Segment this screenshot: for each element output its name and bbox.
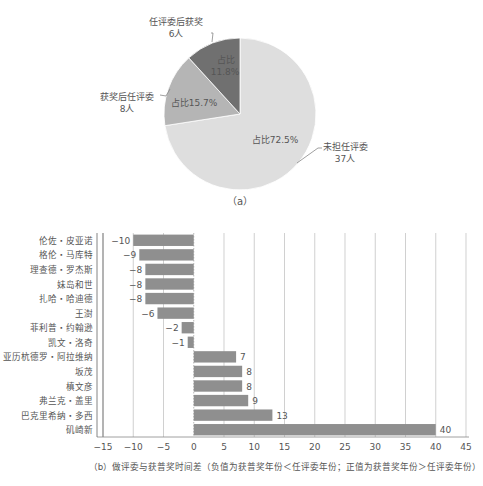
x-tick-label: 45	[460, 442, 471, 452]
x-tick-label: −5	[157, 442, 170, 452]
bar	[182, 322, 194, 333]
category-label: 伦佐・皮亚诺	[39, 235, 93, 246]
bar-value-label: −8	[129, 280, 143, 290]
bar	[145, 293, 193, 304]
x-tick-label: 20	[309, 442, 321, 452]
category-label: 坂茂	[75, 366, 93, 377]
bar	[145, 264, 193, 275]
category-label: 菲利普・约翰逊	[30, 322, 93, 333]
bar	[188, 337, 194, 348]
x-tick-label: −15	[94, 442, 113, 452]
caption-b: （b）做评委与获普奖时间差（负值为获普奖年份＜任评委年份；正值为获普奖年份＞任评…	[89, 461, 481, 472]
bar-value-label: −6	[141, 309, 155, 319]
x-tick-label: 30	[370, 442, 382, 452]
bar	[157, 307, 193, 318]
x-tick-label: −10	[124, 442, 143, 452]
bar-value-label: 9	[252, 396, 258, 406]
bar	[194, 409, 273, 420]
x-tick-label: 0	[191, 442, 197, 452]
bar-value-label: −1	[171, 338, 184, 348]
bar	[145, 278, 193, 289]
x-axis-ticks: −15−10−5051015202530354045	[94, 442, 472, 452]
bar	[194, 366, 242, 377]
category-label: 槙文彦	[66, 381, 93, 392]
bar	[194, 424, 436, 435]
category-label: 弗兰克・盖里	[39, 395, 93, 406]
category-labels: 伦佐・皮亚诺格伦・马库特理查德・罗杰斯妹岛和世扎哈・哈迪德王澍菲利普・约翰逊凯文…	[3, 235, 93, 435]
bar	[194, 351, 236, 362]
category-label: 凯文・洛奇	[48, 337, 93, 348]
x-tick-label: 15	[279, 442, 290, 452]
category-label: 亚历杭德罗・阿拉维纳	[3, 351, 93, 362]
bar-value-label: −8	[129, 265, 143, 275]
category-label: 理查德・罗杰斯	[30, 264, 93, 275]
bar-value-label: 8	[246, 382, 252, 392]
bar-value-label: −10	[111, 236, 130, 246]
bar-value-label: 13	[276, 411, 287, 421]
x-tick-label: 10	[249, 442, 261, 452]
bar-value-label: −8	[129, 294, 143, 304]
x-tick-label: 40	[430, 442, 442, 452]
category-label: 格伦・马库特	[39, 249, 93, 260]
bar	[194, 395, 248, 406]
grid-lines	[97, 233, 469, 437]
category-label: 扎哈・哈迪德	[39, 293, 93, 304]
bar-value-label: 40	[440, 425, 452, 435]
x-tick-label: 35	[400, 442, 411, 452]
bar	[133, 235, 194, 246]
bar-value-label: 7	[240, 352, 246, 362]
bar	[139, 249, 193, 260]
bar-chart: −10−9−8−8−8−6−2−178891340 伦佐・皮亚诺格伦・马库特理查…	[0, 0, 483, 486]
bar	[194, 380, 242, 391]
category-label: 矶崎新	[66, 424, 93, 435]
bar-value-label: −2	[165, 323, 178, 333]
category-label: 妹岛和世	[57, 279, 93, 290]
x-tick-label: 5	[221, 442, 227, 452]
category-label: 巴克里希纳・多西	[21, 410, 93, 421]
category-label: 王澍	[75, 308, 93, 319]
x-tick-label: 25	[339, 442, 350, 452]
bars: −10−9−8−8−8−6−2−178891340	[111, 235, 451, 436]
bar-value-label: −9	[123, 250, 137, 260]
bar-value-label: 8	[246, 367, 252, 377]
